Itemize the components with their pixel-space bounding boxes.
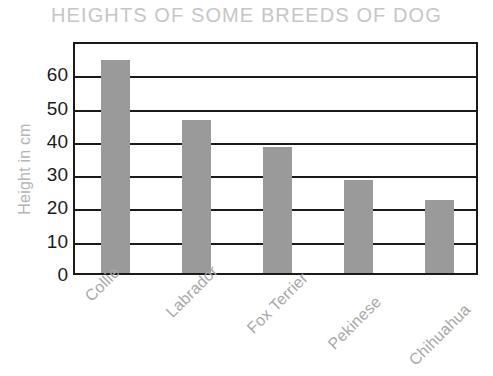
x-tick-label: Fox Terrier xyxy=(243,269,311,337)
y-tick-label: 10 xyxy=(22,231,68,253)
y-tick-label: 50 xyxy=(22,98,68,120)
x-tick-label: Pekinese xyxy=(324,293,384,353)
y-tick-label: 60 xyxy=(22,64,68,86)
chart-title: HEIGHTS OF SOME BREEDS OF DOG xyxy=(0,4,493,27)
bar xyxy=(344,180,373,273)
y-axis-tick-labels: 0102030405060 xyxy=(16,42,68,275)
bar xyxy=(263,147,292,273)
x-axis-tick-labels: CollieLabradorFox TerrierPekineseChihuah… xyxy=(0,282,493,376)
plot-area xyxy=(73,42,478,275)
y-tick-label: 20 xyxy=(22,197,68,219)
bar xyxy=(425,200,454,273)
bars-layer xyxy=(75,44,476,273)
y-tick-label: 30 xyxy=(22,164,68,186)
x-tick-label: Chihuahua xyxy=(405,301,474,370)
y-tick-label: 40 xyxy=(22,131,68,153)
bar-chart: HEIGHTS OF SOME BREEDS OF DOG Height in … xyxy=(0,0,493,376)
bar xyxy=(182,120,211,273)
bar xyxy=(101,60,130,273)
